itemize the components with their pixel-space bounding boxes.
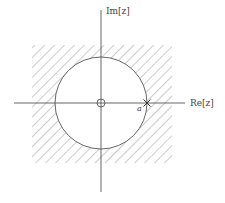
real-axis-label: Re[z] bbox=[190, 98, 214, 108]
imaginary-axis-label: Im[z] bbox=[106, 6, 130, 16]
point-a-label: a bbox=[137, 104, 142, 113]
hatched-region bbox=[32, 45, 172, 163]
